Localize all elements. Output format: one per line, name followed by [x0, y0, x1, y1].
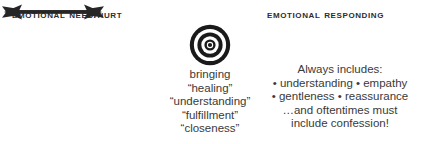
need-hurt-line: “understanding” — [146, 95, 274, 109]
need-hurt-description: bringing “healing” “understanding” “fulf… — [146, 68, 274, 136]
arrow-pointing-left-glyph — [0, 0, 106, 24]
need-hurt-line: “closeness” — [146, 122, 274, 136]
heading-emotional-responding: Emotional Responding — [267, 9, 384, 21]
responding-bullet-line: • gentleness • reassurance — [258, 90, 422, 104]
responding-bullet-line: • understanding • empathy — [258, 77, 422, 91]
need-hurt-line: bringing — [146, 68, 274, 82]
bullseye-target-icon — [189, 24, 231, 66]
emotional-cycle-diagram: Emotional Need/Hurt Emotional Responding — [0, 0, 424, 144]
need-hurt-line: “healing” — [146, 82, 274, 96]
need-hurt-line: “fulfillment” — [146, 109, 274, 123]
bullseye-target — [189, 24, 231, 70]
responding-note-line: …and oftentimes must — [258, 104, 422, 118]
responding-description: Always includes: • understanding • empat… — [258, 63, 422, 131]
responding-heading-line: Always includes: — [258, 63, 422, 77]
responding-note-line: include confession! — [258, 117, 422, 131]
